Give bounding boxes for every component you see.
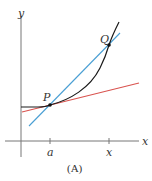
- x-axis-label: x: [142, 135, 149, 148]
- y-axis-label: y: [17, 7, 25, 20]
- diagram-svg: y x a x P Q (A): [0, 0, 152, 181]
- point-label-Q: Q: [100, 33, 109, 46]
- point-label-P: P: [42, 91, 51, 104]
- tangent-line: [22, 83, 139, 112]
- tick-label-x: x: [106, 146, 113, 159]
- secant-line: [29, 33, 120, 126]
- figure: y x a x P Q (A): [0, 0, 152, 181]
- figure-caption: (A): [67, 162, 83, 175]
- tick-label-a: a: [47, 146, 54, 159]
